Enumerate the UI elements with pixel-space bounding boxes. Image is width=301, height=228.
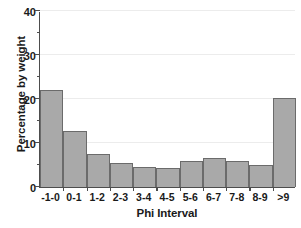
x-axis-tick-labels: -1-00-11-22-33-44-55-66-77-88-9>9 [39, 190, 295, 206]
bar [203, 158, 226, 187]
gridline [40, 10, 295, 11]
y-axis-tick-label: 0 [14, 183, 36, 194]
bar [249, 165, 272, 187]
bar-chart: Percentage by weight 010203040 -1-00-11-… [0, 0, 301, 228]
x-axis-tick-label: -1-0 [39, 190, 62, 204]
y-axis-tick-label: 10 [14, 139, 36, 150]
bar [40, 90, 63, 187]
plot-area [39, 12, 295, 188]
bar [156, 168, 179, 187]
x-axis-tick-label: 0-1 [62, 190, 85, 204]
y-axis-tick-label: 30 [14, 51, 36, 62]
bar [226, 161, 249, 187]
bar [133, 167, 156, 187]
bar [63, 131, 86, 187]
bar-series [40, 12, 295, 187]
x-axis-tick-label: 7-8 [225, 190, 248, 204]
x-axis-tick-label: 2-3 [109, 190, 132, 204]
x-axis-tick-label: 8-9 [248, 190, 271, 204]
bar [87, 154, 110, 187]
y-axis-tick-label: 20 [14, 95, 36, 106]
x-axis-tick-label: 3-4 [132, 190, 155, 204]
bar [273, 98, 296, 187]
y-axis-tick-label: 40 [14, 7, 36, 18]
y-axis-tick-major [35, 10, 40, 11]
x-axis-tick-label: >9 [272, 190, 295, 204]
x-axis-tick-label: 6-7 [202, 190, 225, 204]
bar [180, 161, 203, 187]
x-axis-title: Phi Interval [39, 206, 295, 221]
x-axis-tick-label: 1-2 [86, 190, 109, 204]
bar [110, 163, 133, 187]
y-axis-tick-labels: 010203040 [14, 0, 36, 228]
x-axis-tick-label: 5-6 [179, 190, 202, 204]
x-axis-tick-label: 4-5 [155, 190, 178, 204]
